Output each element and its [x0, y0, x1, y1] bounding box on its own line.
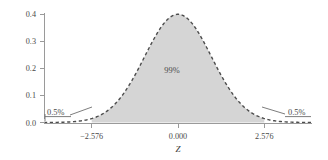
x-tick-label: −2.576: [80, 132, 103, 141]
y-tick-label: 0.2: [26, 64, 36, 73]
y-tick-label: 0.4: [26, 10, 36, 19]
y-tick-label: 0.0: [26, 119, 36, 128]
x-tick-label: 0.000: [169, 132, 187, 141]
central-area-label: 99%: [164, 66, 179, 75]
right-tail-label: 0.5%: [288, 108, 305, 117]
left-tail-label: 0.5%: [47, 108, 64, 117]
y-tick-label: 0.1: [26, 91, 36, 100]
y-tick-label: 0.3: [26, 37, 36, 46]
normal-distribution-chart: 0.00.10.20.30.4 −2.5760.0002.576 0.5% 99…: [0, 0, 328, 160]
chart-canvas: 0.00.10.20.30.4 −2.5760.0002.576 0.5% 99…: [0, 0, 328, 160]
x-tick-label: 2.576: [255, 132, 273, 141]
